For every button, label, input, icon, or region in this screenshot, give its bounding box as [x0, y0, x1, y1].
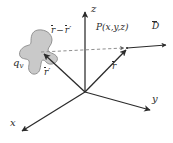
vector-label-r-prime-base: r [44, 68, 48, 77]
vector-label-diff-minus: − [55, 25, 65, 35]
vector-label-D-text: D [152, 22, 159, 31]
x-axis [22, 92, 85, 131]
axis-label-y: y [152, 94, 158, 104]
vector-label-D: D [152, 22, 159, 31]
point-label-P: P(x,y,z) [96, 23, 129, 32]
vector-D [127, 45, 166, 48]
vector-label-diff-first: r [51, 26, 55, 35]
vector-r [85, 50, 126, 92]
charge-label-subscript: v [19, 61, 23, 70]
vector-label-diff-second: r [65, 26, 69, 35]
axis-label-z: z [91, 4, 96, 14]
vector-label-r-text: r [112, 62, 116, 71]
vector-diagram-figure: z y x P(x,y,z) D r r′ r−r′ qv [0, 0, 173, 143]
y-axis [85, 92, 150, 110]
charge-label-qv: qv [13, 58, 23, 69]
vector-r-minus-r-prime [41, 48, 124, 52]
vector-label-r-prime: r′ [44, 68, 50, 77]
charge-volume-blob [20, 30, 58, 74]
axis-label-x: x [10, 118, 16, 128]
vector-label-r-minus-r-prime: r−r′ [51, 26, 71, 35]
vector-label-r-prime-mark: ′ [48, 67, 50, 77]
diagram-canvas [0, 0, 173, 143]
vector-label-diff-prime: ′ [69, 25, 71, 35]
point-P-marker [126, 47, 128, 49]
point-label-P-args: (x,y,z) [102, 22, 128, 32]
vector-label-r: r [112, 62, 116, 71]
